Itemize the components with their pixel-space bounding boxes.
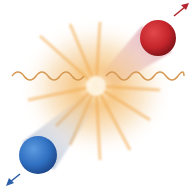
- red-arrow-icon: [174, 3, 189, 16]
- blue-arrow-icon: [6, 174, 20, 186]
- blue-particle: [19, 136, 57, 174]
- collision-illustration: [0, 0, 196, 192]
- red-particle: [140, 20, 176, 56]
- figure-caption: [0, 186, 196, 192]
